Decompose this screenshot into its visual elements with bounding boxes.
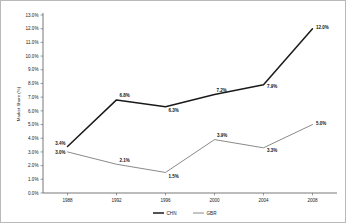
data-label-chn-2008: 12.0% bbox=[316, 25, 329, 30]
x-tick-label: 1988 bbox=[62, 198, 73, 203]
x-tick-label: 2000 bbox=[209, 198, 220, 203]
y-axis-title: Market Share (%) bbox=[16, 86, 21, 121]
axis-spines bbox=[43, 13, 337, 193]
data-label-chn-1996: 6.3% bbox=[169, 108, 179, 113]
x-axis: 198819921996200020042008 bbox=[62, 193, 318, 203]
data-point-labels: 3.4%6.8%6.3%7.2%7.9%12.0%3.0%2.1%1.5%3.9… bbox=[55, 25, 329, 179]
legend-label-gbr: GBR bbox=[207, 211, 218, 216]
y-axis: 0.0%1.0%2.0%3.0%4.0%5.0%6.0%7.0%8.0%9.0%… bbox=[25, 13, 43, 196]
data-label-gbr-1992: 2.1% bbox=[120, 158, 130, 163]
data-label-gbr-1988: 3.0% bbox=[55, 150, 65, 155]
y-tick-label: 13.0% bbox=[25, 13, 38, 18]
x-tick-label: 2008 bbox=[307, 198, 318, 203]
y-tick-label: 1.0% bbox=[28, 177, 38, 182]
y-tick-label: 9.0% bbox=[28, 67, 38, 72]
data-label-chn-1992: 6.8% bbox=[120, 93, 130, 98]
y-tick-label: 6.0% bbox=[28, 109, 38, 114]
data-label-gbr-2008: 5.0% bbox=[316, 121, 326, 126]
data-label-chn-2004: 7.9% bbox=[267, 84, 277, 89]
legend-label-chn: CHN bbox=[167, 211, 177, 216]
chart-legend: CHNGBR bbox=[153, 211, 217, 216]
y-tick-label: 7.0% bbox=[28, 95, 38, 100]
y-tick-label: 12.0% bbox=[25, 26, 38, 31]
y-tick-label: 2.0% bbox=[28, 163, 38, 168]
x-tick-label: 2004 bbox=[258, 198, 269, 203]
y-tick-label: 0.0% bbox=[28, 191, 38, 196]
data-label-chn-2000: 7.2% bbox=[217, 88, 227, 93]
data-label-gbr-1996: 1.5% bbox=[169, 174, 179, 179]
y-tick-label: 11.0% bbox=[26, 40, 39, 45]
x-tick-label: 1992 bbox=[111, 198, 122, 203]
line-chart: 0.0%1.0%2.0%3.0%4.0%5.0%6.0%7.0%8.0%9.0%… bbox=[1, 1, 346, 223]
y-tick-label: 5.0% bbox=[28, 122, 38, 127]
chart-figure: 0.0%1.0%2.0%3.0%4.0%5.0%6.0%7.0%8.0%9.0%… bbox=[0, 0, 346, 223]
x-tick-label: 1996 bbox=[160, 198, 171, 203]
y-tick-label: 3.0% bbox=[28, 150, 38, 155]
data-label-chn-1988: 3.4% bbox=[55, 141, 65, 146]
y-tick-label: 10.0% bbox=[25, 54, 38, 59]
y-tick-label: 8.0% bbox=[28, 81, 38, 86]
y-tick-label: 4.0% bbox=[28, 136, 38, 141]
data-label-gbr-2004: 3.3% bbox=[267, 148, 277, 153]
data-label-gbr-2000: 3.9% bbox=[217, 133, 227, 138]
